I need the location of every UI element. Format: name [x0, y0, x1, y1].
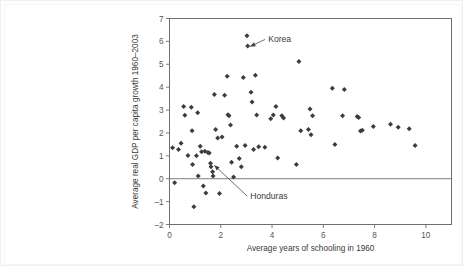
data-point	[237, 156, 242, 161]
x-tick-label: 0	[167, 231, 172, 240]
data-point	[268, 116, 273, 121]
data-point	[229, 160, 234, 165]
x-tick-label: 10	[421, 231, 431, 240]
data-point	[310, 113, 315, 118]
data-point	[342, 87, 347, 92]
y-tick-label: 4	[159, 83, 164, 92]
data-point	[307, 106, 312, 111]
data-point	[215, 135, 220, 140]
data-point	[306, 127, 311, 132]
plot-frame	[170, 19, 452, 225]
data-point	[225, 74, 230, 79]
data-point	[243, 143, 248, 148]
data-point	[244, 33, 249, 38]
data-point	[181, 104, 186, 109]
annotation-label-honduras: Honduras	[250, 191, 287, 201]
data-point	[212, 92, 217, 97]
data-points-group	[170, 33, 418, 209]
data-point	[294, 162, 299, 167]
data-point	[407, 126, 412, 131]
data-point	[196, 173, 201, 178]
x-axis-title: Average years of schooling in 1960	[247, 244, 375, 253]
scatter-plot: –2–1012345670246810Average years of scho…	[1, 1, 463, 266]
data-point	[234, 144, 239, 149]
y-tick-label: 3	[159, 106, 164, 115]
data-point	[222, 93, 227, 98]
y-tick-label: 6	[159, 37, 164, 46]
x-tick-label: 8	[372, 231, 377, 240]
y-tick-label: 7	[159, 15, 164, 24]
data-point	[273, 104, 278, 109]
data-point	[217, 191, 222, 196]
data-point	[245, 43, 250, 48]
x-tick-label: 4	[270, 231, 275, 240]
data-point	[250, 100, 255, 105]
data-point	[262, 145, 267, 150]
data-point	[213, 127, 218, 132]
data-point	[309, 132, 314, 137]
y-tick-label: –2	[154, 221, 164, 230]
data-point	[275, 156, 280, 161]
data-point	[170, 145, 175, 150]
figure-container: –2–1012345670246810Average years of scho…	[0, 0, 463, 266]
data-point	[413, 143, 418, 148]
data-point	[239, 164, 244, 169]
y-axis-title: Average real GDP per capita growth 1960–…	[131, 34, 140, 209]
data-point	[190, 162, 195, 167]
data-point	[191, 204, 196, 209]
data-point	[249, 90, 254, 95]
data-point	[194, 153, 199, 158]
data-point	[396, 125, 401, 130]
data-point	[241, 75, 246, 80]
data-point	[172, 180, 177, 185]
data-point	[271, 113, 276, 118]
y-tick-label: –1	[154, 198, 164, 207]
data-point	[210, 169, 215, 174]
data-point	[251, 147, 256, 152]
x-tick-label: 2	[218, 231, 223, 240]
data-point	[211, 173, 216, 178]
data-point	[330, 86, 335, 91]
data-point	[340, 113, 345, 118]
data-point	[182, 113, 187, 118]
data-point	[332, 142, 337, 147]
data-point	[371, 124, 376, 129]
data-point	[253, 73, 258, 78]
data-point	[256, 144, 261, 149]
data-point	[203, 190, 208, 195]
data-point	[190, 128, 195, 133]
y-tick-label: 0	[159, 175, 164, 184]
data-point	[198, 144, 203, 149]
data-point	[185, 153, 190, 158]
data-point	[189, 105, 194, 110]
y-tick-label: 2	[159, 129, 164, 138]
data-point	[179, 141, 184, 146]
data-point	[228, 122, 233, 127]
data-point	[209, 164, 214, 169]
data-point	[220, 135, 225, 140]
data-point	[388, 122, 393, 127]
y-tick-label: 1	[159, 152, 164, 161]
y-tick-label: 5	[159, 60, 164, 69]
annotation-label-korea: Korea	[268, 34, 291, 44]
data-point	[201, 184, 206, 189]
data-point	[298, 128, 303, 133]
data-point	[176, 147, 181, 152]
data-point	[195, 110, 200, 115]
x-tick-label: 6	[321, 231, 326, 240]
data-point	[254, 113, 259, 118]
data-point	[296, 59, 301, 64]
